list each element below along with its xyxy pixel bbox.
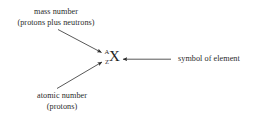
mass-number-arrow [58, 30, 102, 53]
nuclide-notation-figure: mass number (protons plus neutrons) atom… [0, 0, 256, 118]
arrow-layer [0, 0, 256, 118]
atomic-number-arrow [57, 62, 102, 89]
